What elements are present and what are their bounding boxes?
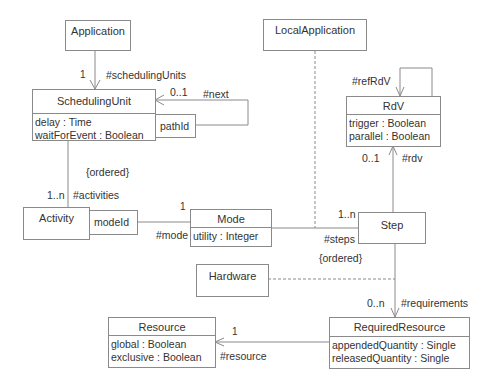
attribute: parallel : Boolean: [349, 130, 438, 143]
multiplicity-label: 1: [232, 326, 238, 338]
class-name: SchedulingUnit: [33, 94, 155, 108]
class-name: Mode: [191, 212, 271, 226]
class-name: Step: [359, 218, 425, 232]
multiplicity-label: 1: [180, 201, 186, 213]
attribute: appendedQuantity : Single: [332, 339, 467, 352]
class-name: Resource: [109, 320, 215, 334]
attribute: delay : Time: [35, 116, 153, 129]
role-label: #schedulingUnits: [106, 69, 186, 81]
attributes: global : Boolean exclusive : Boolean: [109, 335, 215, 369]
role-label: #steps: [324, 233, 355, 245]
class-name: RequiredResource: [330, 320, 469, 334]
role-label: #mode: [156, 229, 188, 241]
qualifier-label: pathId: [160, 120, 189, 132]
multiplicity-label: 0..1: [170, 86, 188, 98]
attributes: delay : Time waitForEvent : Boolean: [33, 113, 155, 146]
role-label: #next: [203, 88, 229, 100]
role-label: #activities: [73, 189, 119, 201]
role-label: #requirements: [401, 297, 468, 309]
role-label: #rdv: [402, 152, 422, 164]
multiplicity-label: 1..n: [338, 208, 356, 220]
class-required-resource: RequiredResource appendedQuantity : Sing…: [329, 317, 470, 369]
multiplicity-label: 1: [80, 69, 86, 81]
multiplicity-label: 0..1: [362, 152, 380, 164]
attribute: waitForEvent : Boolean: [35, 129, 153, 142]
class-name: LocalApplication: [264, 23, 366, 37]
constraint-label: {ordered}: [86, 166, 129, 178]
qualifier-path-id: pathId: [155, 114, 196, 138]
role-label: #refRdV: [352, 75, 391, 87]
attribute: utility : Integer: [193, 230, 269, 243]
qualifier-label: modeId: [94, 216, 129, 228]
class-name: RdV: [347, 99, 440, 113]
class-application: Application: [65, 20, 131, 51]
role-label: #resource: [220, 350, 267, 362]
class-activity: Activity: [23, 207, 90, 240]
class-scheduling-unit: SchedulingUnit delay : Time waitForEvent…: [32, 89, 156, 141]
class-name: Hardware: [197, 269, 268, 283]
attributes: appendedQuantity : Single releasedQuanti…: [330, 336, 469, 370]
multiplicity-label: 1..n: [47, 189, 65, 201]
class-rdv: RdV trigger : Boolean parallel : Boolean: [346, 96, 441, 147]
qualifier-mode-id: modeId: [89, 210, 138, 235]
class-step: Step: [358, 212, 426, 244]
class-mode: Mode utility : Integer: [190, 209, 272, 247]
attribute: trigger : Boolean: [349, 117, 438, 130]
class-resource: Resource global : Boolean exclusive : Bo…: [108, 317, 216, 368]
multiplicity-label: 0..n: [367, 297, 385, 309]
class-name: Activity: [24, 211, 89, 225]
attribute: global : Boolean: [111, 338, 213, 351]
class-local-application: LocalApplication: [263, 19, 367, 51]
attribute: exclusive : Boolean: [111, 351, 213, 364]
attribute: releasedQuantity : Single: [332, 352, 467, 365]
class-hardware: Hardware: [196, 264, 269, 297]
attributes: utility : Integer: [191, 227, 271, 247]
attributes: trigger : Boolean parallel : Boolean: [347, 114, 440, 148]
constraint-label: {ordered}: [319, 252, 362, 264]
class-name: Application: [66, 24, 130, 38]
